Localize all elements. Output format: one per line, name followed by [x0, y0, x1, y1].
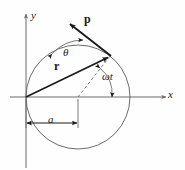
vector-p-arrow — [70, 24, 111, 56]
x-axis-label: x — [168, 89, 173, 100]
y-axis-label: y — [31, 10, 36, 21]
dimension-a-label: a — [48, 114, 54, 125]
angle-omega-t-label: ωt — [102, 71, 113, 82]
angle-theta-label: θ — [63, 47, 68, 58]
vector-p-label: p — [84, 13, 91, 25]
physics-vector-diagram: y x p r θ ωt a — [0, 0, 185, 170]
diagram-canvas — [0, 0, 185, 170]
vector-r-label: r — [54, 60, 59, 72]
